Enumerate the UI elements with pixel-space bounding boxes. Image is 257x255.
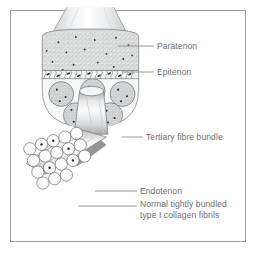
- label-paratenon: Paratenon: [157, 41, 197, 52]
- epitenon-dome: [42, 29, 138, 71]
- label-collagen-fibrils: Normal tightly bundled type I collagen f…: [140, 199, 236, 220]
- tendon-structure-figure: Paratenon Epitenon Tertiary fibre bundle…: [0, 0, 257, 255]
- fibril-cluster-cross-section: [24, 127, 91, 189]
- label-epitenon: Epitenon: [157, 67, 191, 78]
- label-endotenon: Endotenon: [140, 186, 182, 197]
- label-tertiary-fibre-bundle: Tertiary fibre bundle: [146, 132, 223, 143]
- extruded-tertiary-bundle: [74, 86, 108, 134]
